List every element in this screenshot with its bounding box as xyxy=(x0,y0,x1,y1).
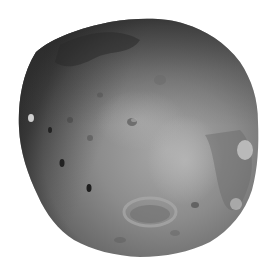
moon-illustration xyxy=(0,0,275,279)
crater-small xyxy=(67,117,73,123)
moon-body xyxy=(0,0,275,279)
crater-highlight xyxy=(131,118,137,122)
crater-small xyxy=(87,135,93,141)
crater-dark xyxy=(48,127,52,133)
crater-dark xyxy=(60,159,65,167)
image-canvas xyxy=(0,0,275,279)
crater-bright-right xyxy=(237,140,253,160)
crater-bright-left xyxy=(28,114,34,122)
crater-small xyxy=(170,230,180,236)
crater-small xyxy=(154,75,166,85)
crater-small xyxy=(191,202,199,208)
crater-bright-lower-right xyxy=(230,198,242,210)
crater-small xyxy=(114,237,126,243)
crater-dark xyxy=(87,184,92,192)
crater-small xyxy=(97,93,103,98)
